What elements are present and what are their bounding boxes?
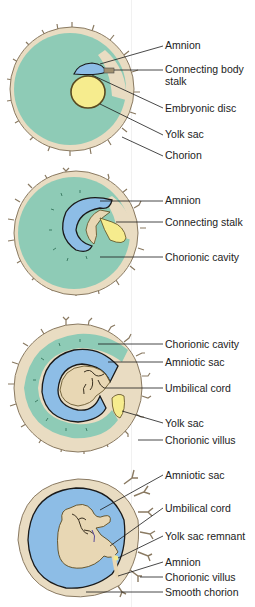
label-amnion: Amnion bbox=[165, 195, 201, 206]
label-umbilical-cord: Umbilical cord bbox=[165, 503, 231, 514]
label-amniotic-sac: Amniotic sac bbox=[165, 470, 225, 481]
stage-2-illustration bbox=[8, 168, 163, 296]
label-yolk-sac-remnant: Yolk sac remnant bbox=[165, 531, 245, 542]
label-chorionic-cavity: Chorionic cavity bbox=[165, 339, 239, 350]
label-amnion: Amnion bbox=[165, 557, 201, 568]
label-umbilical-cord: Umbilical cord bbox=[165, 383, 231, 394]
label-chorionic-villus: Chorionic villus bbox=[165, 435, 236, 446]
label-smooth-chorion: Smooth chorion bbox=[165, 587, 239, 598]
label-chorionic-villus: Chorionic villus bbox=[165, 572, 236, 583]
label-amnion: Amnion bbox=[165, 40, 201, 51]
label-chorion: Chorion bbox=[165, 150, 202, 161]
stage-1-illustration bbox=[7, 22, 163, 156]
label-connecting-body-stalk-line2: stalk bbox=[165, 76, 187, 87]
stage-3-illustration bbox=[8, 317, 163, 454]
label-connecting-stalk: Connecting stalk bbox=[165, 217, 243, 228]
label-chorionic-cavity: Chorionic cavity bbox=[165, 252, 239, 263]
embryo-development-diagram bbox=[0, 0, 255, 607]
label-yolk-sac: Yolk sac bbox=[165, 129, 204, 140]
label-embryonic-disc: Embryonic disc bbox=[165, 103, 236, 114]
label-amniotic-sac: Amniotic sac bbox=[165, 357, 225, 368]
stage-4-illustration bbox=[18, 470, 163, 597]
label-yolk-sac: Yolk sac bbox=[165, 418, 204, 429]
label-connecting-body-stalk: Connecting body bbox=[165, 64, 244, 75]
